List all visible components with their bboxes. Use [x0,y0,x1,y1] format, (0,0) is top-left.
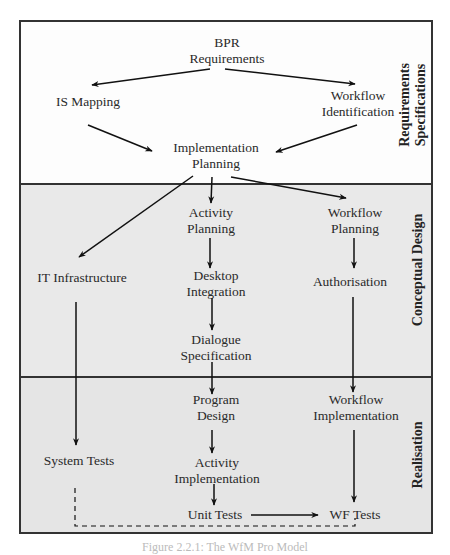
edge-bpr-wfident [225,69,355,84]
node-label: Activity [187,205,235,221]
section-label-line: Specifications [413,63,429,147]
edge-implplan-wfplan [231,177,346,198]
node-label: Workflow [313,392,398,408]
node-workflow-planning: Workflow Planning [328,205,382,237]
node-workflow-identification: Workflow Identification [322,88,395,120]
edge-implplan-actplan [211,177,212,203]
node-label: Unit Tests [188,507,243,523]
node-label: Requirements [190,51,265,67]
node-label: Desktop [186,268,245,284]
node-desktop-integration: Desktop Integration [186,268,245,300]
node-label: Activity [174,455,259,471]
node-program-design: Program Design [193,392,240,424]
figure-caption: Figure 2.2.1: The WfM Pro Model [0,540,450,555]
section-label-line: Conceptual Design [410,214,426,326]
node-label: Implementation [174,471,259,487]
edge-implplan-itinfra [79,176,193,257]
node-implementation-planning: Implementation Planning [173,140,258,172]
node-label: Workflow [322,88,395,104]
node-bpr-requirements: BPR Requirements [190,35,265,67]
node-is-mapping: IS Mapping [56,94,120,110]
node-label: BPR [190,35,265,51]
node-label: Workflow [328,205,382,221]
node-label: Planning [187,221,235,237]
node-label: Integration [186,284,245,300]
node-label: Implementation [173,140,258,156]
node-label: WF Tests [330,507,381,523]
node-workflow-implementation: Workflow Implementation [313,392,398,424]
node-label: Planning [328,221,382,237]
node-unit-tests: Unit Tests [188,507,243,523]
node-label: IS Mapping [56,94,120,110]
node-system-tests: System Tests [44,453,114,469]
edge-wfident-implplan [276,125,357,152]
node-label: IT Infrastructure [37,270,126,286]
section-label-requirements-specifications: Requirements Specifications [397,63,429,147]
section-label-line: Realisation [410,422,426,489]
section-label-line: Requirements [397,63,413,147]
node-label: Authorisation [313,274,387,290]
node-dialogue-specification: Dialogue Specification [180,332,251,364]
node-label: Planning [173,156,258,172]
section-label-realisation: Realisation [410,422,426,489]
node-authorisation: Authorisation [313,274,387,290]
edge-bpr-ismapping [92,69,210,85]
node-label: System Tests [44,453,114,469]
node-label: Dialogue [180,332,251,348]
section-label-conceptual-design: Conceptual Design [410,214,426,326]
node-label: Design [193,408,240,424]
node-label: Program [193,392,240,408]
node-label: Specification [180,348,251,364]
node-activity-implementation: Activity Implementation [174,455,259,487]
node-activity-planning: Activity Planning [187,205,235,237]
node-it-infrastructure: IT Infrastructure [37,270,126,286]
node-label: Implementation [313,408,398,424]
edge-ismapping-implplan [88,125,152,151]
node-label: Identification [322,104,395,120]
node-wf-tests: WF Tests [330,507,381,523]
